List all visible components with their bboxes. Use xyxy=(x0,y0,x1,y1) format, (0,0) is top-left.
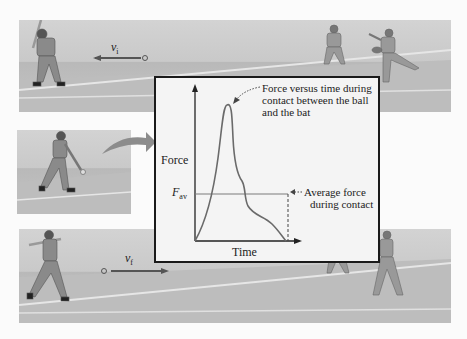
force-curve xyxy=(195,105,286,241)
baseball-icon xyxy=(102,269,107,274)
peak-annotation: Force versus time during contact between… xyxy=(262,82,372,118)
final-velocity-label: vf xyxy=(125,251,133,267)
force-time-chart: Force Time Fav Force versus time during … xyxy=(154,76,380,263)
y-axis-arrow-icon xyxy=(192,84,198,92)
peak-annotation-pointer xyxy=(236,87,260,100)
initial-velocity-label: vi xyxy=(111,40,119,56)
y-axis-label: Force xyxy=(161,154,188,166)
curved-arrow-icon xyxy=(100,130,158,160)
fav-label: Fav xyxy=(172,186,187,203)
baseball-icon xyxy=(143,56,148,61)
average-annotation: Average force during contact xyxy=(304,186,373,210)
x-axis-label: Time xyxy=(232,246,257,258)
x-axis-arrow-icon xyxy=(294,238,302,244)
